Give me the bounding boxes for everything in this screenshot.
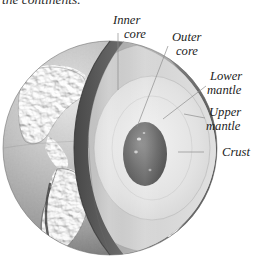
label-upper-mantle: Upper mantle (206, 105, 241, 133)
label-inner-core-line1: Inner (112, 13, 140, 27)
label-lower-mantle-line1: Lower (209, 69, 242, 83)
label-outer-core: Outer core (172, 30, 201, 58)
label-inner-core: Inner core (112, 13, 146, 41)
label-inner-core-line2: core (124, 27, 146, 41)
label-upper-mantle-line2: mantle (206, 119, 241, 133)
label-outer-core-line1: Outer (172, 30, 201, 44)
diagram-canvas: Inner core Outer core Lower mantle Upper… (0, 0, 265, 266)
label-outer-core-line2: core (176, 44, 198, 58)
earth-interior-figure: the continents. (0, 0, 265, 266)
label-lower-mantle-line2: mantle (207, 83, 242, 97)
label-crust-text: Crust (222, 145, 250, 159)
label-lower-mantle: Lower mantle (207, 69, 242, 97)
label-crust: Crust (222, 145, 250, 159)
label-upper-mantle-line1: Upper (209, 105, 241, 119)
